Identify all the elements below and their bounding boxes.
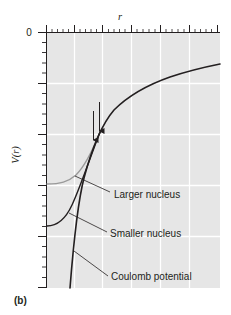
panel-label: (b) (14, 295, 27, 306)
y-axis (38, 32, 47, 288)
y-axis-label: V(r) (10, 146, 22, 164)
potential-chart: 0 r V(r) Larger nucleus Smaller nucleus … (0, 0, 231, 315)
larger-nucleus-label: Larger nucleus (114, 189, 180, 200)
coulomb-potential-label: Coulomb potential (111, 271, 192, 282)
smaller-nucleus-label: Smaller nucleus (110, 228, 181, 239)
x-axis (38, 25, 220, 33)
x-axis-label: r (118, 11, 123, 22)
y-zero-tick-label: 0 (26, 27, 32, 38)
